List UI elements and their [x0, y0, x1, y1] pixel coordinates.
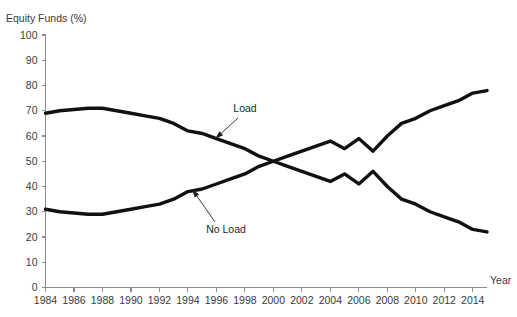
x-tick-label: 2002 [290, 294, 314, 306]
annotation-label: No Load [206, 223, 246, 235]
x-tick-label: 1994 [176, 294, 200, 306]
x-tick-label: 1996 [205, 294, 229, 306]
series-lines [46, 91, 488, 232]
y-tick-label: 10 [26, 256, 38, 268]
y-axis-ticks: 0102030405060708090100 [20, 29, 46, 294]
y-tick-label: 20 [26, 231, 38, 243]
y-tick-label: 60 [26, 130, 38, 142]
y-tick-label: 40 [26, 180, 38, 192]
y-tick-label: 0 [32, 281, 38, 293]
x-tick-label: 1986 [62, 294, 86, 306]
y-tick-label: 70 [26, 104, 38, 116]
x-tick-label: 2004 [319, 294, 343, 306]
chart-title: Equity Funds (%) [6, 12, 87, 24]
equity-funds-line-chart: Equity Funds (%) 0102030405060708090100 … [0, 0, 517, 317]
y-tick-label: 30 [26, 205, 38, 217]
series-annotations: LoadNo Load [192, 102, 257, 235]
x-tick-label: 2014 [461, 294, 485, 306]
x-tick-label: 1998 [233, 294, 257, 306]
x-tick-label: 2000 [262, 294, 286, 306]
y-tick-label: 50 [26, 155, 38, 167]
chart-canvas: Equity Funds (%) 0102030405060708090100 … [0, 0, 517, 317]
x-axis-ticks: 1984198619881990199219941996199820002002… [34, 288, 485, 306]
annotation-arrow-shaft [220, 118, 238, 135]
x-tick-label: 1988 [91, 294, 115, 306]
x-tick-label: 2010 [404, 294, 428, 306]
x-tick-label: 2006 [347, 294, 371, 306]
x-tick-label: 2012 [433, 294, 457, 306]
y-tick-label: 90 [26, 54, 38, 66]
x-tick-label: 1992 [148, 294, 172, 306]
x-tick-label: 1984 [34, 294, 58, 306]
annotation-label: Load [233, 102, 257, 114]
y-tick-label: 100 [20, 29, 38, 41]
annotation-arrow-shaft [196, 194, 215, 222]
x-axis-title: Year [490, 274, 512, 286]
x-tick-label: 2008 [376, 294, 400, 306]
x-tick-label: 1990 [119, 294, 143, 306]
y-tick-label: 80 [26, 79, 38, 91]
